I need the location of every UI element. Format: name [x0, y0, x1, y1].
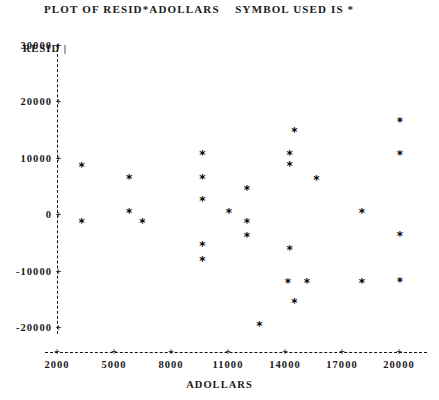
data-point-marker: * — [198, 242, 207, 251]
y-axis-spine — [57, 44, 58, 334]
x-axis-tick-mark: + — [167, 346, 176, 358]
data-point-marker: * — [243, 186, 252, 195]
y-axis-tick-label: 10000 — [21, 153, 53, 164]
x-axis-tick-mark: + — [224, 346, 233, 358]
y-axis-tick: 0+ — [0, 209, 52, 220]
y-axis-tick-mark: + — [55, 153, 63, 164]
data-point-marker: * — [198, 175, 207, 184]
data-point-marker: * — [395, 118, 404, 127]
data-point-marker: * — [224, 209, 233, 218]
data-point-marker: * — [138, 219, 147, 228]
y-axis-tick-mark: + — [55, 266, 63, 277]
y-axis-tick: 10000+ — [0, 153, 52, 164]
data-point-marker: * — [255, 322, 264, 331]
y-axis-tick-label: -10000 — [16, 266, 52, 277]
y-axis-tick: 20000+ — [0, 96, 52, 107]
data-point-marker: * — [290, 128, 299, 137]
data-point-marker: * — [243, 233, 252, 242]
data-point-marker: * — [285, 246, 294, 255]
data-point-marker: * — [395, 151, 404, 160]
y-axis-tick: -20000+ — [0, 322, 52, 333]
data-point-marker: * — [198, 151, 207, 160]
data-point-marker: * — [283, 279, 292, 288]
x-axis-tick-mark: + — [110, 346, 119, 358]
y-axis-tick-label: 20000 — [21, 96, 53, 107]
data-point-marker: * — [77, 219, 86, 228]
data-point-marker: * — [302, 279, 311, 288]
y-axis-tick-label: 30000 — [21, 40, 53, 51]
data-point-marker: * — [312, 176, 321, 185]
data-point-marker: * — [290, 299, 299, 308]
data-point-marker: * — [243, 219, 252, 228]
y-axis-tick-label: -20000 — [16, 322, 52, 333]
data-point-marker: * — [285, 162, 294, 171]
y-axis-tick-mark: + — [55, 40, 63, 51]
y-axis-tick-label: 0 — [46, 209, 52, 220]
x-axis-tick-mark: + — [338, 346, 347, 358]
data-point-marker: * — [125, 175, 134, 184]
data-point-marker: * — [395, 278, 404, 287]
x-axis-tick-label: 20000 — [364, 359, 434, 371]
scatter-plot-canvas: PLOT OF RESID*ADOLLARS SYMBOL USED IS * … — [0, 0, 439, 400]
y-axis-tick: 30000+ — [0, 40, 52, 51]
data-point-marker: * — [198, 197, 207, 206]
x-axis-tick-mark: + — [53, 346, 62, 358]
x-axis-label: ADOLLARS — [0, 379, 439, 391]
x-axis-tick-mark: + — [395, 346, 404, 358]
x-axis-spine — [45, 352, 427, 353]
y-axis-tick-mark: + — [55, 209, 63, 220]
page-title: PLOT OF RESID*ADOLLARS SYMBOL USED IS * — [44, 3, 354, 16]
data-point-marker: * — [77, 163, 86, 172]
y-axis-tick-mark: + — [55, 96, 63, 107]
y-axis-tick-mark: + — [55, 322, 63, 333]
y-axis-tick: -10000+ — [0, 266, 52, 277]
data-point-marker: * — [125, 209, 134, 218]
x-axis-tick-mark: + — [281, 346, 290, 358]
data-point-marker: * — [357, 279, 366, 288]
data-point-marker: * — [395, 232, 404, 241]
data-point-marker: * — [357, 209, 366, 218]
data-point-marker: * — [198, 257, 207, 266]
